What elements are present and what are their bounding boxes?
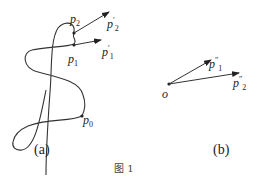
label-p2-dprime: p″2 xyxy=(233,74,246,94)
figure-1: p2 p′2 p′1 p1 p0 (a) o p″1 p″2 (b) 图 1 xyxy=(0,0,254,178)
label-p2-prime: p′2 xyxy=(107,15,119,35)
label-p0: p0 xyxy=(83,114,93,131)
label-origin: o xyxy=(162,88,168,100)
arrow-p1-to-p1prime xyxy=(74,40,101,45)
panel-a-label: (a) xyxy=(34,143,50,157)
panel-b-label: (b) xyxy=(213,143,229,157)
label-p1-prime: p′1 xyxy=(102,43,114,63)
label-p2: p2 xyxy=(70,13,80,30)
figure-caption: 图 1 xyxy=(114,164,134,174)
label-p1-dprime: p″1 xyxy=(209,55,222,75)
label-p1: p1 xyxy=(68,53,78,70)
